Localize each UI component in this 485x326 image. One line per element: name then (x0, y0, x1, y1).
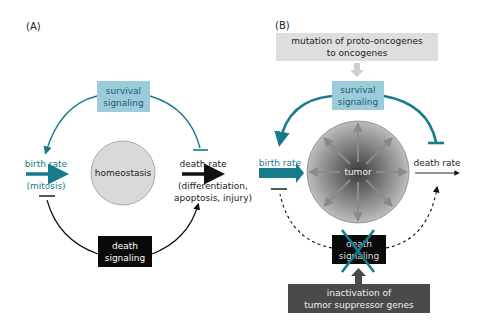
mutation-label-1: mutation of proto-oncogenes (291, 36, 423, 46)
diagram-canvas: (A) survival signaling homeostasis birth… (0, 0, 485, 326)
tumor-label: tumor (344, 167, 372, 177)
survival-label-b-1: survival (340, 85, 375, 95)
panel-a: (A) survival signaling homeostasis birth… (25, 21, 252, 267)
survival-label-a-1: survival (106, 86, 141, 96)
death-rate-label-b: death rate (413, 158, 461, 168)
death-sub-label-1: (differentiation, (178, 181, 248, 191)
up-arrow-icon (351, 268, 366, 284)
death-to-death-rate-arrow (152, 205, 198, 254)
survival-label-a-2: signaling (103, 98, 144, 108)
death-inhibits-birth-line (47, 200, 98, 254)
panel-a-label: (A) (26, 21, 41, 32)
panel-b: (B) mutation of proto-oncogenes to oncog… (259, 20, 461, 313)
survival-label-b-2: signaling (338, 97, 379, 107)
death-rate-label-a: death rate (179, 159, 227, 169)
death-signaling-label-a-2: signaling (105, 253, 146, 263)
survival-inhibits-death-line (150, 96, 200, 148)
death-sub-label-2: apoptosis, injury) (174, 193, 252, 203)
mutation-label-2: to oncogenes (327, 48, 388, 58)
inactivation-label-1: inactivation of (327, 288, 392, 298)
death-signaling-label-a-1: death (112, 241, 138, 251)
birth-rate-label-a: birth rate (25, 159, 68, 169)
inactivation-label-2: tumor suppressor genes (304, 300, 414, 310)
down-arrow-icon (350, 63, 364, 77)
panel-b-label: (B) (275, 20, 290, 31)
survival-to-birth-arrow (46, 96, 97, 152)
birth-rate-label-b: birth rate (259, 158, 302, 168)
homeostasis-label: homeostasis (95, 168, 152, 178)
mitosis-label: (mitosis) (26, 181, 65, 191)
